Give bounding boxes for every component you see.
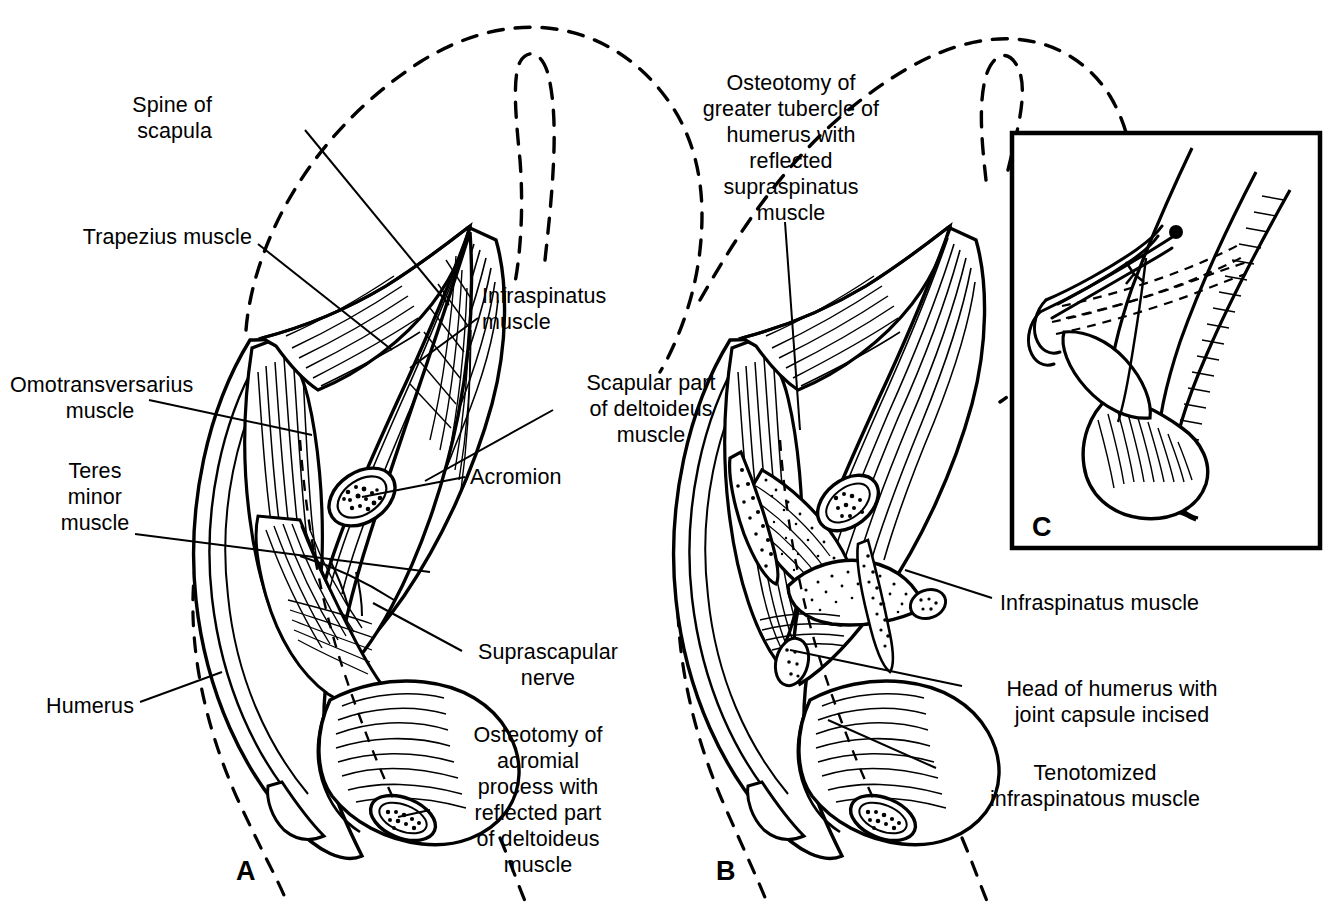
label-infraspinatus-muscle-a: Infraspinatus muscle [482,283,682,335]
label-scapular-part-of-deltoideus: Scapular part of deltoideus muscle [556,370,746,448]
panel-letter-a: A [236,856,256,887]
label-trapezius-muscle: Trapezius muscle [2,224,252,250]
label-osteotomy-acromial-process: Osteotomy of acromial process with refle… [443,722,633,878]
label-teres-minor-muscle: Teres minor muscle [40,458,150,536]
label-tenotomized-infraspinatous: Tenotomized infraspinatous muscle [940,760,1250,812]
label-osteotomy-greater-tubercle: Osteotomy of greater tubercle of humerus… [686,70,896,226]
panel-letter-b: B [716,856,736,887]
forceps-ratchet-knob [1169,225,1183,239]
humeral-head [788,560,924,625]
label-infraspinatus-muscle-b: Infraspinatus muscle [1000,590,1330,616]
label-humerus: Humerus [0,693,134,719]
label-spine-of-scapula: Spine of scapula [22,92,212,144]
label-omotransversarius-muscle: Omotransversarius muscle [10,372,190,424]
label-acromion: Acromion [470,464,650,490]
label-suprascapular-nerve: Suprascapular nerve [458,639,638,691]
panel-letter-c: C [1032,512,1052,543]
panel-c-inset [1012,133,1320,548]
label-head-of-humerus: Head of humerus with joint capsule incis… [966,676,1258,728]
